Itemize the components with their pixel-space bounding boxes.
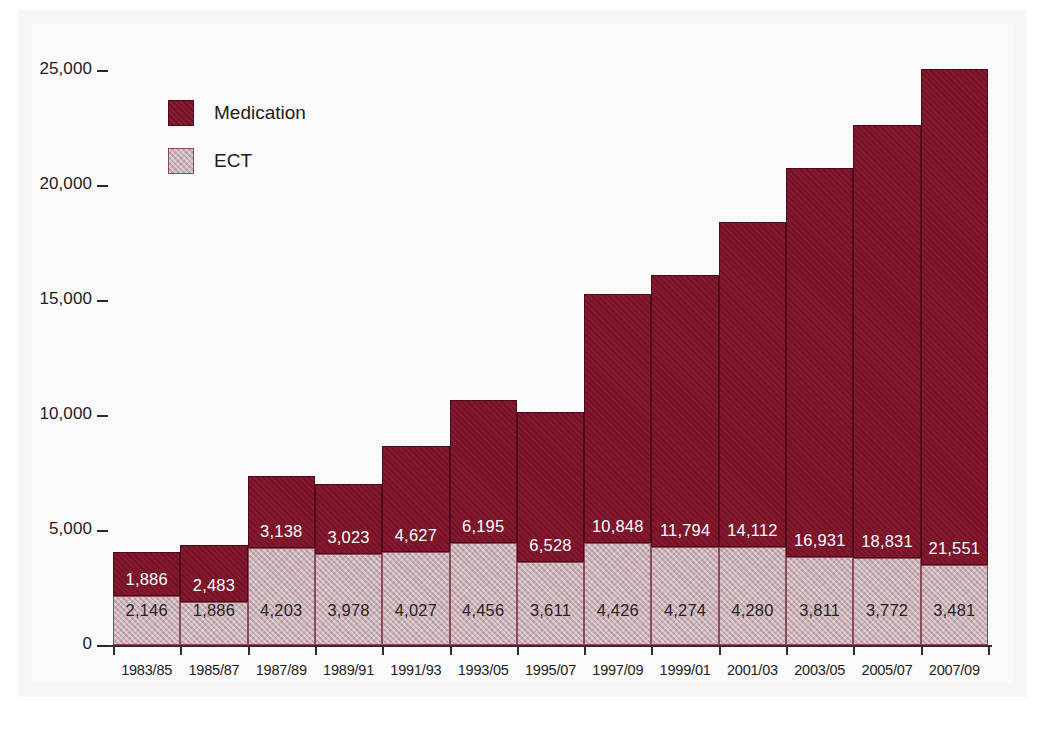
bar-segment-medication: 6,195 [450, 400, 517, 542]
bar-column: 1,8862,146 [113, 552, 180, 645]
x-axis-tick-label: 2007/09 [909, 662, 999, 678]
bar-value-label-ect: 1,886 [181, 601, 246, 620]
bar-segment-medication: 10,848 [584, 294, 651, 544]
bar-value-label-medication: 1,886 [114, 570, 179, 589]
bar-value-label-ect: 3,611 [518, 601, 583, 620]
y-axis-tick-mark [97, 415, 108, 417]
bar-value-label-ect: 3,481 [922, 601, 987, 620]
bar-column: 21,5513,481 [921, 69, 988, 645]
bar-value-label-ect: 4,426 [585, 601, 650, 620]
bar-column: 6,5283,611 [517, 412, 584, 645]
x-axis-tick-mark [180, 645, 182, 655]
bar-value-label-ect: 3,811 [787, 601, 852, 620]
bar-column: 11,7944,274 [651, 275, 718, 645]
bar-segment-medication: 2,483 [180, 545, 247, 602]
y-axis-tick-label: 20,000 [14, 174, 92, 194]
y-axis-tick-label: 0 [14, 634, 92, 654]
x-axis-tick-mark [921, 645, 923, 655]
bar-segment-medication: 3,023 [315, 484, 382, 554]
bar-value-label-medication: 18,831 [854, 532, 919, 551]
plot-area: 1,8862,1462,4831,8863,1384,2033,0233,978… [113, 70, 988, 645]
bar-segment-medication: 3,138 [248, 476, 315, 548]
bar-segment-ect: 1,886 [180, 602, 247, 645]
bar-value-label-medication: 3,138 [249, 522, 314, 541]
x-axis-tick-mark [853, 645, 855, 655]
bar-column: 10,8484,426 [584, 294, 651, 645]
bar-segment-ect: 4,274 [651, 547, 718, 645]
bar-value-label-ect: 3,978 [316, 601, 381, 620]
bar-value-label-medication: 6,528 [518, 536, 583, 555]
bar-segment-medication: 14,112 [719, 222, 786, 547]
stacked-bar-chart: 05,00010,00015,00020,00025,000 Medicatio… [0, 0, 1045, 742]
bar-segment-medication: 21,551 [921, 69, 988, 565]
bar-segment-medication: 11,794 [651, 275, 718, 546]
bar-column: 18,8313,772 [853, 125, 920, 645]
y-axis-tick-label: 10,000 [14, 404, 92, 424]
bar-segment-ect: 4,027 [382, 552, 449, 645]
bar-column: 4,6274,027 [382, 446, 449, 645]
bar-value-label-medication: 11,794 [652, 521, 717, 540]
bar-column: 3,1384,203 [248, 476, 315, 645]
y-axis-tick-mark [97, 70, 108, 72]
bar-column: 6,1954,456 [450, 400, 517, 645]
x-axis-tick-mark [651, 645, 653, 655]
bar-segment-medication: 16,931 [786, 168, 853, 557]
bar-column: 3,0233,978 [315, 484, 382, 645]
bar-column: 14,1124,280 [719, 222, 786, 645]
bar-value-label-medication: 14,112 [720, 521, 785, 540]
bar-value-label-medication: 10,848 [585, 517, 650, 536]
bar-segment-ect: 4,456 [450, 543, 517, 645]
x-axis-tick-mark [786, 645, 788, 655]
y-axis-tick-mark [97, 300, 108, 302]
bar-segment-ect: 4,426 [584, 543, 651, 645]
y-axis-tick-label: 5,000 [14, 519, 92, 539]
bar-segment-ect: 3,772 [853, 558, 920, 645]
bar-segment-ect: 3,481 [921, 565, 988, 645]
bar-value-label-medication: 6,195 [451, 517, 516, 536]
y-axis-tick-label: 25,000 [14, 59, 92, 79]
bar-segment-medication: 6,528 [517, 412, 584, 562]
bar-segment-ect: 3,978 [315, 554, 382, 645]
bar-value-label-ect: 4,274 [652, 601, 717, 620]
bar-segment-ect: 4,280 [719, 547, 786, 645]
bar-segment-ect: 4,203 [248, 548, 315, 645]
bar-value-label-ect: 4,280 [720, 601, 785, 620]
x-axis-tick-mark [382, 645, 384, 655]
bar-column: 16,9313,811 [786, 168, 853, 645]
bar-segment-medication: 1,886 [113, 552, 180, 595]
x-axis-tick-mark [584, 645, 586, 655]
bar-segment-medication: 18,831 [853, 125, 920, 558]
chart-page: 05,00010,00015,00020,00025,000 Medicatio… [0, 0, 1045, 742]
bar-column: 2,4831,886 [180, 545, 247, 645]
y-axis-tick-mark [97, 530, 108, 532]
x-axis-tick-mark [719, 645, 721, 655]
x-axis-tick-mark [113, 645, 115, 655]
bar-value-label-medication: 21,551 [922, 539, 987, 558]
x-axis-tick-mark [450, 645, 452, 655]
bar-value-label-medication: 3,023 [316, 528, 381, 547]
bar-value-label-ect: 4,203 [249, 601, 314, 620]
x-axis-tick-mark [248, 645, 250, 655]
y-axis: 05,00010,00015,00020,00025,000 [0, 0, 92, 742]
bar-value-label-medication: 16,931 [787, 531, 852, 550]
bar-value-label-ect: 3,772 [854, 601, 919, 620]
bar-segment-ect: 3,611 [517, 562, 584, 645]
x-axis-line [108, 645, 992, 647]
y-axis-tick-mark [97, 185, 108, 187]
bar-segment-ect: 3,811 [786, 557, 853, 645]
bar-value-label-ect: 4,027 [383, 601, 448, 620]
bar-value-label-medication: 4,627 [383, 526, 448, 545]
bar-value-label-ect: 4,456 [451, 601, 516, 620]
x-axis-tick-mark [988, 645, 990, 655]
bar-value-label-medication: 2,483 [181, 576, 246, 595]
bar-value-label-ect: 2,146 [114, 601, 179, 620]
y-axis-tick-mark [97, 645, 108, 647]
bar-segment-medication: 4,627 [382, 446, 449, 552]
y-axis-tick-label: 15,000 [14, 289, 92, 309]
bar-segment-ect: 2,146 [113, 596, 180, 645]
x-axis-tick-mark [315, 645, 317, 655]
x-axis-tick-mark [517, 645, 519, 655]
